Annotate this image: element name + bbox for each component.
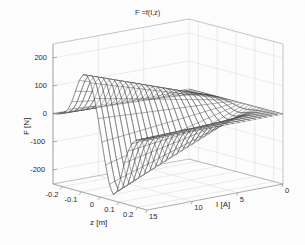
z-tick-0: 0 [90,200,94,209]
z-axis-label: z [m] [90,218,107,227]
mesh-surface [53,75,283,195]
plot-title: F =f(I,z) [135,8,160,17]
z-tick-0p1: 0.1 [104,205,114,214]
surface-plot-3d [0,0,305,245]
f-tick-100: 100 [34,81,47,90]
f-tick-0: 0 [43,109,47,118]
z-tick-neg0p1: -0.1 [64,195,77,204]
i-tick-5: 5 [240,195,244,204]
f-tick-neg200: -200 [30,165,45,174]
matlab-figure-canvas: F =f(I,z) F [N] z [m] I [A] 2001000-100-… [0,0,305,245]
i-tick-15: 15 [149,212,157,221]
f-axis-label: F [N] [22,118,31,135]
i-tick-10: 10 [194,203,202,212]
f-tick-200: 200 [34,53,47,62]
z-tick-neg0p2: -0.2 [46,190,59,199]
z-tick-0p2: 0.2 [123,210,133,219]
i-tick-0: 0 [285,186,289,195]
f-tick-neg100: -100 [30,137,45,146]
i-axis-label: I [A] [216,200,230,209]
